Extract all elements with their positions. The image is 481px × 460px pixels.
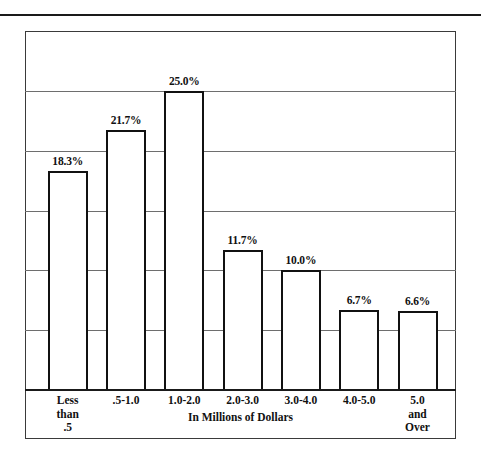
bar [398, 311, 438, 390]
bar [339, 310, 379, 390]
bar-value-label: 18.3% [34, 155, 102, 167]
bar-value-label: 21.7% [92, 114, 160, 126]
x-axis-title: In Millions of Dollars [25, 411, 456, 423]
bar-value-label: 6.6% [384, 295, 452, 307]
bar [106, 130, 146, 390]
gridline [25, 211, 456, 212]
bar-value-label: 25.0% [150, 75, 218, 87]
x-axis-line [25, 389, 456, 391]
gridline [25, 91, 456, 92]
chart-page: 18.3%Less than .521.7%.5-1.025.0%1.0-2.0… [0, 0, 481, 460]
bar [281, 270, 321, 390]
bar [48, 171, 88, 390]
bar-value-label: 11.7% [209, 234, 277, 246]
top-divider-rule [0, 14, 481, 16]
bar [223, 250, 263, 390]
bar-value-label: 10.0% [267, 254, 335, 266]
gridline [25, 151, 456, 152]
bar [164, 91, 204, 390]
